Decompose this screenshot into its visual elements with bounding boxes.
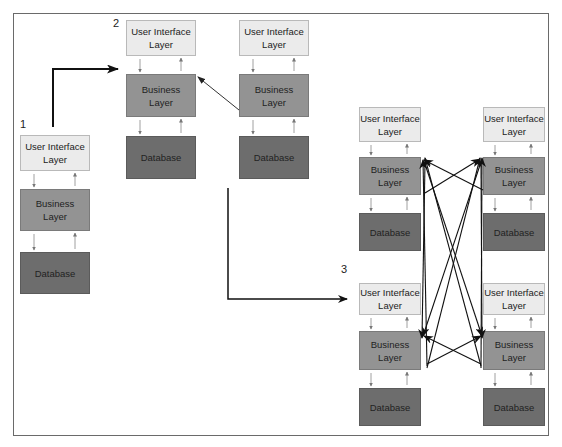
connections-layer <box>0 0 562 447</box>
arrow-s3b-to-s3c <box>423 162 481 336</box>
arrow-stage2-to-stage3 <box>228 188 347 299</box>
arrow-s2b-to-s2a <box>198 77 239 110</box>
arrow-s3a-to-s3d <box>425 164 482 336</box>
arrow-stage1-to-stage2 <box>53 69 118 127</box>
